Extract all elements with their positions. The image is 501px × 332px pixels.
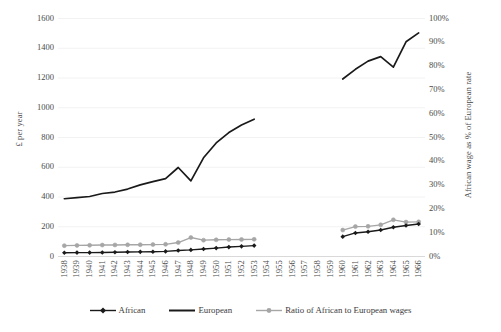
legend-item-ratio-of-african-to-european-wages[interactable]: Ratio of African to European wages <box>256 306 411 315</box>
data-point <box>75 250 80 255</box>
data-point <box>163 249 168 254</box>
y-tick-right-20pct: 20% <box>429 204 445 213</box>
x-tick-1965: 1965 <box>402 260 411 278</box>
data-point <box>75 243 79 247</box>
x-tick-1942: 1942 <box>110 260 119 278</box>
data-point <box>113 250 118 255</box>
x-tick-1956: 1956 <box>288 260 297 278</box>
y-tick-right-70pct: 70% <box>429 85 445 94</box>
legend-swatch-icon <box>256 306 282 315</box>
x-tick-1960: 1960 <box>338 260 347 278</box>
data-point <box>176 241 180 245</box>
y-tick-left-800: 800 <box>8 133 54 142</box>
y-tick-right-10pct: 10% <box>429 228 445 237</box>
data-point <box>214 246 219 251</box>
x-tick-1954: 1954 <box>262 260 271 278</box>
series-european <box>64 33 418 199</box>
data-point <box>189 236 193 240</box>
data-point <box>138 243 142 247</box>
data-point <box>227 238 231 242</box>
y-tick-left-1200: 1200 <box>8 73 54 82</box>
data-point <box>227 245 232 250</box>
x-tick-1938: 1938 <box>60 260 69 278</box>
y-tick-left-600: 600 <box>8 162 54 171</box>
chart-container: £ per year 02004006008001000120014001600… <box>0 0 501 332</box>
y-tick-right-100pct: 100% <box>429 14 449 23</box>
y-tick-right-80pct: 80% <box>429 61 445 70</box>
y-tick-right-40pct: 40% <box>429 156 445 165</box>
x-tick-1941: 1941 <box>98 260 107 278</box>
data-point <box>252 243 257 248</box>
x-tick-1959: 1959 <box>326 260 335 278</box>
x-tick-1958: 1958 <box>313 260 322 278</box>
legend-swatch-icon <box>90 306 116 315</box>
y-axis-left-ticks: 02004006008001000120014001600 <box>0 0 54 332</box>
x-tick-1957: 1957 <box>300 260 309 278</box>
data-point <box>391 225 396 230</box>
data-point <box>126 243 130 247</box>
data-point <box>378 228 383 233</box>
legend-item-african[interactable]: African <box>90 306 146 315</box>
y-tick-left-1400: 1400 <box>8 43 54 52</box>
x-tick-1962: 1962 <box>364 260 373 278</box>
legend-label: European <box>198 306 232 315</box>
data-point <box>391 218 395 222</box>
x-tick-1966: 1966 <box>414 260 423 278</box>
y-tick-left-200: 200 <box>8 222 54 231</box>
y-tick-right-0pct: 0% <box>429 252 440 261</box>
y-tick-left-1000: 1000 <box>8 103 54 112</box>
x-tick-1964: 1964 <box>389 260 398 278</box>
data-point <box>62 250 67 255</box>
y-tick-left-400: 400 <box>8 192 54 201</box>
data-point <box>176 248 181 253</box>
data-point <box>100 243 104 247</box>
data-point <box>62 244 66 248</box>
x-tick-1950: 1950 <box>212 260 221 278</box>
y-tick-right-30pct: 30% <box>429 180 445 189</box>
series-line <box>343 33 419 79</box>
data-point <box>189 248 194 253</box>
data-point <box>252 237 256 241</box>
data-point <box>100 250 105 255</box>
legend-label: African <box>119 306 146 315</box>
x-tick-1955: 1955 <box>275 260 284 278</box>
x-tick-1963: 1963 <box>376 260 385 278</box>
chart-legend: AfricanEuropeanRatio of African to Europ… <box>0 306 501 315</box>
data-point <box>88 243 92 247</box>
data-point <box>240 237 244 241</box>
x-tick-1951: 1951 <box>224 260 233 278</box>
data-point <box>87 250 92 255</box>
legend-swatch-icon <box>169 306 195 315</box>
x-tick-1943: 1943 <box>123 260 132 278</box>
data-point <box>151 249 156 254</box>
chart-svg <box>58 18 425 257</box>
series-line <box>64 119 254 199</box>
data-point <box>113 243 117 247</box>
series-line <box>64 238 254 246</box>
data-point <box>214 238 218 242</box>
x-tick-1953: 1953 <box>250 260 259 278</box>
y-tick-right-90pct: 90% <box>429 37 445 46</box>
data-point <box>353 225 357 229</box>
x-tick-1946: 1946 <box>161 260 170 278</box>
x-tick-1945: 1945 <box>148 260 157 278</box>
legend-label: Ratio of African to European wages <box>285 306 411 315</box>
plot-area <box>58 18 425 256</box>
x-tick-1940: 1940 <box>85 260 94 278</box>
data-point <box>151 243 155 247</box>
data-point <box>340 234 345 239</box>
data-point <box>202 238 206 242</box>
y-tick-left-1600: 1600 <box>8 14 54 23</box>
data-point <box>138 250 143 255</box>
data-point <box>379 223 383 227</box>
x-tick-1961: 1961 <box>351 260 360 278</box>
x-tick-1949: 1949 <box>199 260 208 278</box>
legend-item-european[interactable]: European <box>169 306 232 315</box>
x-tick-1944: 1944 <box>136 260 145 278</box>
data-point <box>201 247 206 252</box>
y-axis-right-ticks: 0%10%20%30%40%50%60%70%80%90%100% <box>429 0 489 332</box>
data-point <box>353 231 358 236</box>
y-axis-right-title: African wage as % of European rate <box>463 45 473 225</box>
x-tick-1947: 1947 <box>174 260 183 278</box>
x-tick-1948: 1948 <box>186 260 195 278</box>
